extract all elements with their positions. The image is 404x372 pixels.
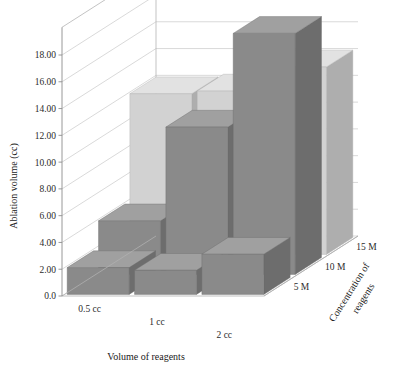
bars-group: [67, 17, 353, 295]
x-axis-title: Volume of reagents: [107, 351, 185, 362]
z-category-label: 15 M: [356, 242, 377, 252]
x-category-label: 1 cc: [149, 317, 165, 327]
y-tick-label: 2.00: [39, 265, 56, 275]
chart-container: 0.02.004.006.008.0010.0012.0014.0016.001…: [0, 0, 404, 372]
y-tick-label: 0.0: [44, 291, 56, 301]
y-tick-label: 18.00: [35, 50, 57, 60]
y-axis-title: Ablation volume (cc): [8, 143, 20, 229]
bar-2cc-10M: [233, 17, 321, 275]
y-tick-label: 10.00: [35, 158, 57, 168]
y-tick-label: 8.00: [39, 184, 56, 194]
x-category-label: 0.5 cc: [78, 304, 101, 314]
y-tick-label: 6.00: [39, 211, 56, 221]
x-category-label: 2 cc: [217, 330, 233, 340]
y-tick-label: 4.00: [39, 238, 56, 248]
z-category-label: 5 M: [294, 282, 310, 292]
z-category-label: 10 M: [325, 262, 346, 272]
bar-2cc-5M: [202, 237, 290, 294]
y-tick-label: 14.00: [35, 104, 57, 114]
y-tick-label: 12.00: [35, 131, 57, 141]
bar-chart-3d: 0.02.004.006.008.0010.0012.0014.0016.001…: [0, 0, 404, 372]
y-tick-label: 16.00: [35, 77, 57, 87]
